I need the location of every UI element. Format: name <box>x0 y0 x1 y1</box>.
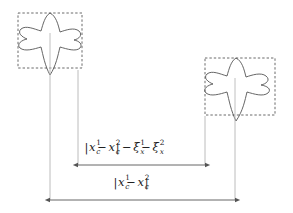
xi-symbol-2: ξ <box>153 140 160 154</box>
total-dimension-label: |x 1 c −x 2 c | <box>113 175 149 189</box>
var-x-3: x <box>118 175 125 189</box>
var-x-1: x <box>89 140 96 154</box>
gap-dimension-label: |x 1 c −x 2 c |−ξ 1 x −ξ 2 x <box>84 140 159 154</box>
star-shape-2 <box>205 58 270 121</box>
bounding-box-shape-2 <box>205 58 275 115</box>
figure-canvas: |x 1 c −x 2 c |−ξ 1 x −ξ 2 x |x 1 c −x 2… <box>0 0 293 213</box>
minus-2: − <box>120 140 133 154</box>
xi-symbol-1: ξ <box>133 140 140 154</box>
